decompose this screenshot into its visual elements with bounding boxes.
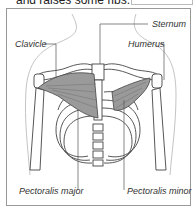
- label-humerus: Humerus: [128, 39, 165, 49]
- label-pectoralis-major: Pectoralis major: [19, 186, 84, 196]
- thorax-illustration: [0, 0, 196, 210]
- label-pectoralis-minor: Pectoralis minor: [127, 186, 192, 196]
- label-clavicle: Clavicle: [15, 39, 47, 49]
- label-sternum: Sternum: [152, 19, 186, 29]
